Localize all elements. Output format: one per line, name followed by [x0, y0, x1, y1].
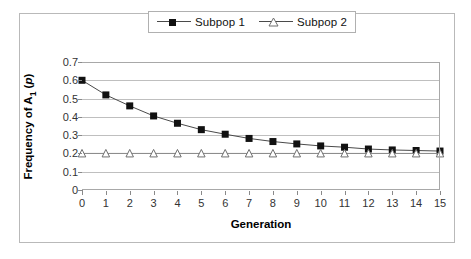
y-axis-tick-mark	[78, 135, 82, 136]
x-axis-tick-label: 3	[142, 197, 166, 209]
legend-marker-filled-square-icon	[157, 16, 191, 28]
x-axis-tick-label: 9	[285, 197, 309, 209]
series-layer	[82, 62, 440, 190]
x-axis-tick-label: 0	[70, 197, 94, 209]
x-axis-tick-mark	[273, 191, 274, 195]
chart-legend: Subpop 1 Subpop 2	[148, 11, 356, 33]
x-axis-tick-label: 12	[356, 197, 380, 209]
legend-entry-subpop-2: Subpop 2	[259, 16, 347, 28]
y-axis-tick-labels: 0.70.60.50.40.30.20.10	[46, 62, 78, 190]
x-axis-tick-label: 11	[333, 197, 357, 209]
y-axis-tick-label: 0.4	[50, 111, 78, 123]
data-point-marker	[126, 102, 133, 109]
y-axis-tick-mark	[78, 153, 82, 154]
y-axis-tick-label: 0.5	[50, 93, 78, 105]
data-point-marker	[174, 120, 181, 127]
x-axis-tick-label: 2	[118, 197, 142, 209]
x-axis-title: Generation	[82, 218, 440, 230]
x-axis-tick-mark	[177, 191, 178, 195]
data-point-marker	[150, 112, 157, 119]
chart-figure: Subpop 1 Subpop 2 Frequency of A1 (p) 0.…	[0, 0, 471, 259]
data-point-marker	[246, 135, 253, 142]
data-point-marker	[198, 126, 205, 133]
legend-marker-open-triangle-icon	[259, 16, 293, 28]
x-axis-tick-mark	[130, 191, 131, 195]
legend-label-subpop-1: Subpop 1	[195, 16, 245, 28]
x-axis-tick-mark	[297, 191, 298, 195]
y-axis-tick-mark	[78, 99, 82, 100]
x-axis-tick-mark	[82, 191, 83, 195]
x-axis-tick-mark	[321, 191, 322, 195]
x-axis-tick-mark	[154, 191, 155, 195]
series-line-subpop-1	[82, 80, 440, 151]
x-axis-tick-mark	[225, 191, 226, 195]
data-point-marker	[102, 91, 109, 98]
y-axis-title-text: Frequency of A1 (p)	[22, 74, 34, 180]
x-axis-tick-label: 13	[380, 197, 404, 209]
y-axis-tick-label: 0	[50, 184, 78, 196]
x-axis-tick-mark	[368, 191, 369, 195]
legend-entry-subpop-1: Subpop 1	[157, 16, 245, 28]
x-axis-tick-mark	[106, 191, 107, 195]
x-axis-tick-mark	[249, 191, 250, 195]
x-axis-tick-label: 5	[189, 197, 213, 209]
x-axis-tick-label: 1	[94, 197, 118, 209]
x-axis-tick-mark	[392, 191, 393, 195]
y-axis-title: Frequency of A1 (p)	[20, 60, 40, 194]
legend-label-subpop-2: Subpop 2	[297, 16, 347, 28]
y-axis-tick-mark	[78, 80, 82, 81]
y-axis-tick-mark	[78, 190, 82, 191]
data-point-marker	[293, 140, 300, 147]
plot-area	[82, 62, 440, 190]
x-axis-tick-label: 15	[428, 197, 452, 209]
y-axis-tick-mark	[78, 62, 82, 63]
y-axis-tick-label: 0.1	[50, 166, 78, 178]
x-axis-tick-label: 4	[165, 197, 189, 209]
x-axis-tick-label: 7	[237, 197, 261, 209]
x-axis-tick-label: 8	[261, 197, 285, 209]
y-axis-tick-mark	[78, 172, 82, 173]
y-axis-tick-mark	[78, 117, 82, 118]
x-axis-tick-mark	[440, 191, 441, 195]
y-axis-tick-label: 0.2	[50, 147, 78, 159]
data-point-marker	[269, 138, 276, 145]
y-axis-tick-label: 0.6	[50, 74, 78, 86]
x-axis-tick-label: 10	[309, 197, 333, 209]
data-point-marker	[222, 131, 229, 138]
x-axis-tick-mark	[345, 191, 346, 195]
x-axis-tick-label: 6	[213, 197, 237, 209]
y-axis-tick-label: 0.3	[50, 129, 78, 141]
x-axis-tick-mark	[416, 191, 417, 195]
x-axis-tick-mark	[201, 191, 202, 195]
y-axis-tick-label: 0.7	[50, 56, 78, 68]
x-axis-tick-label: 14	[404, 197, 428, 209]
